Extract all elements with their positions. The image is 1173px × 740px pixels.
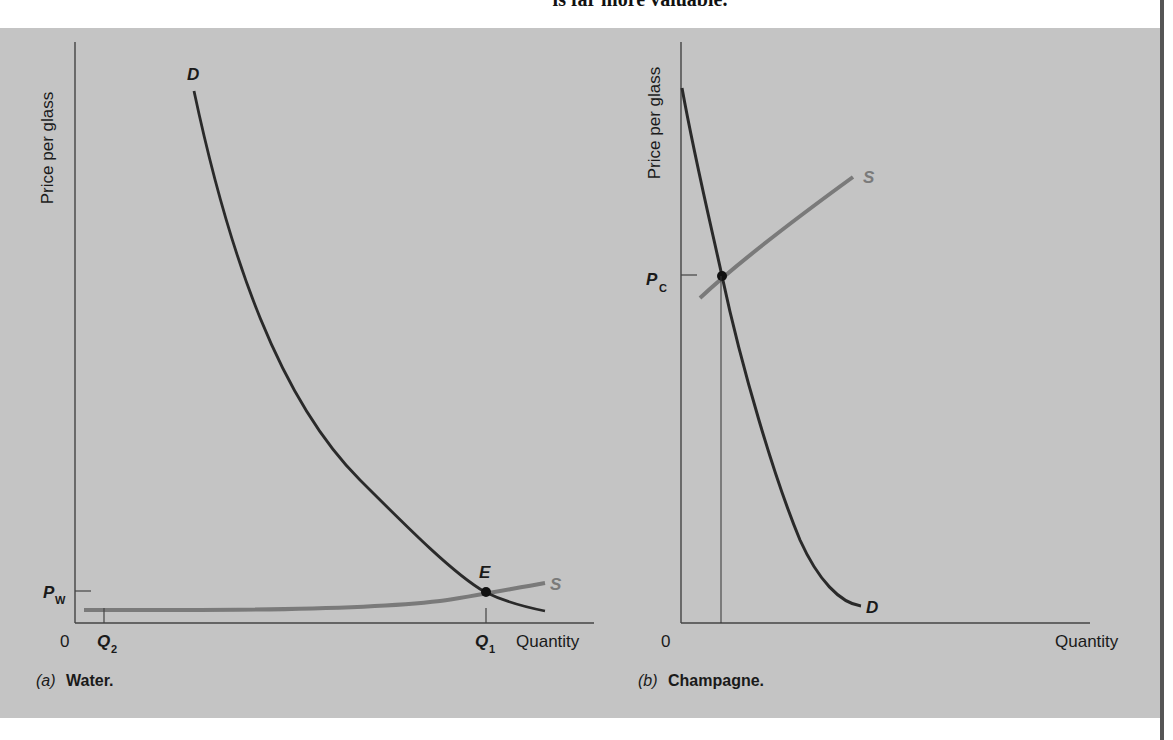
water-demand-label: D — [187, 65, 199, 84]
champagne-origin-label: 0 — [661, 632, 670, 651]
water-origin-label: 0 — [60, 632, 69, 651]
figure: Price per glass D S E P W 0 Q 2 Q 1 Quan… — [0, 0, 1173, 740]
water-q1-label: Q — [475, 632, 488, 651]
water-price-label: P — [43, 583, 55, 602]
water-equilibrium-label: E — [479, 563, 491, 582]
champagne-x-axis-label: Quantity — [1055, 632, 1119, 651]
champagne-y-axis-label: Price per glass — [645, 67, 664, 179]
water-demand-curve — [194, 91, 545, 611]
water-x-axis-label: Quantity — [516, 632, 580, 651]
champagne-caption-letter: (b) — [638, 672, 658, 689]
water-caption-letter: (a) — [36, 672, 56, 689]
champagne-chart: Price per glass S D P C 0 Quantity (b) C… — [638, 42, 1119, 689]
water-caption-title: Water. — [66, 672, 113, 689]
champagne-demand-curve — [682, 88, 861, 606]
water-price-label-sub: W — [55, 594, 66, 606]
water-supply-label: S — [550, 575, 562, 594]
champagne-equilibrium-point — [717, 271, 727, 281]
champagne-price-label: P — [646, 270, 658, 289]
champagne-demand-label: D — [866, 598, 878, 617]
water-q2-label-sub: 2 — [111, 643, 117, 655]
water-q2-label: Q — [97, 632, 110, 651]
water-q1-label-sub: 1 — [489, 643, 495, 655]
champagne-price-label-sub: C — [659, 282, 667, 294]
water-y-axis-label: Price per glass — [38, 92, 57, 204]
champagne-caption-title: Champagne. — [668, 672, 764, 689]
water-equilibrium-point — [481, 587, 491, 597]
water-chart: Price per glass D S E P W 0 Q 2 Q 1 Quan… — [36, 42, 594, 689]
champagne-supply-label: S — [863, 168, 875, 187]
